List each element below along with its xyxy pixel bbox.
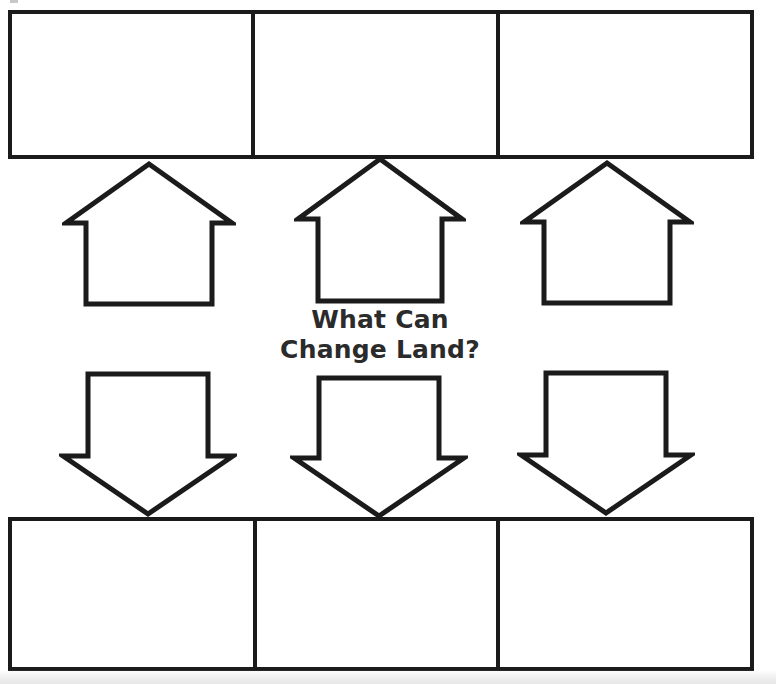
arrow-down-icon-3 xyxy=(517,369,695,517)
top-answer-boxes-row xyxy=(8,10,754,159)
bottom-answer-box-3[interactable] xyxy=(496,521,750,667)
top-answer-box-1[interactable] xyxy=(12,14,251,155)
page-title: What Can Change Land? xyxy=(240,305,520,365)
bottom-answer-box-1[interactable] xyxy=(12,521,253,667)
page-edge-shading xyxy=(0,670,776,684)
bottom-answer-boxes-row xyxy=(8,517,754,671)
top-answer-box-3[interactable] xyxy=(496,14,750,155)
worksheet-graphic-organizer: What Can Change Land? xyxy=(0,0,776,684)
bottom-answer-box-2[interactable] xyxy=(253,521,495,667)
arrow-down-icon-2 xyxy=(290,374,468,520)
arrow-down-icon-1 xyxy=(59,370,237,518)
scan-speck xyxy=(10,0,18,3)
arrow-up-icon-1 xyxy=(62,160,236,308)
arrow-up-icon-3 xyxy=(520,159,694,307)
top-answer-box-2[interactable] xyxy=(251,14,495,155)
arrow-up-icon-2 xyxy=(294,155,466,305)
